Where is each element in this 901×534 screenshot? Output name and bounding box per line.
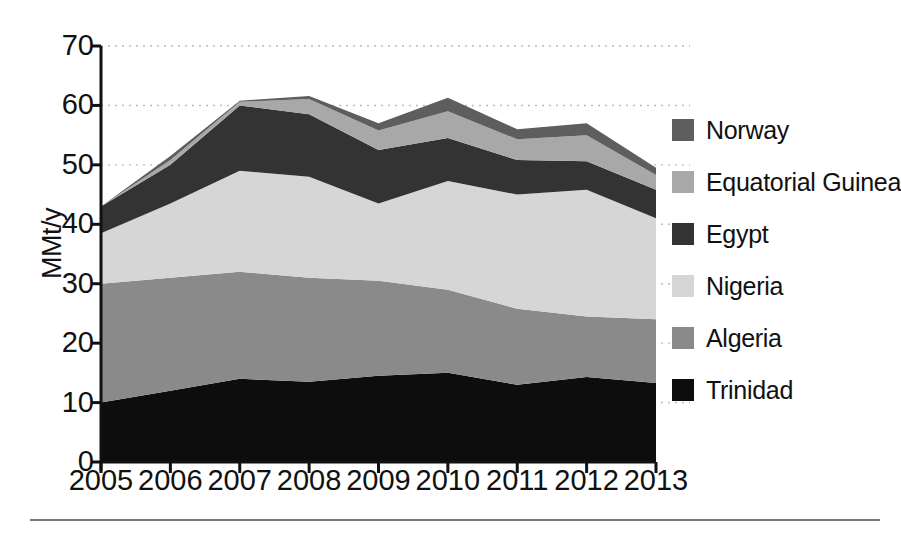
x-tick-label-2010: 2010 [408, 466, 488, 495]
x-tick-label-2006: 2006 [130, 466, 210, 495]
legend-swatch-icon [672, 171, 694, 193]
legend-item-label: Norway [706, 116, 789, 145]
legend-item-trinidad[interactable]: Trinidad [672, 364, 894, 416]
x-tick-label-2009: 2009 [339, 466, 419, 495]
legend-swatch-icon [672, 327, 694, 349]
legend-item-label: Trinidad [706, 376, 793, 405]
chart-legend: NorwayEquatorial GuineaEgyptNigeriaAlger… [672, 104, 894, 416]
x-tick-label-2008: 2008 [269, 466, 349, 495]
area-series-group [101, 96, 656, 462]
legend-swatch-icon [672, 275, 694, 297]
x-tick-label-2011: 2011 [477, 466, 557, 495]
legend-item-equatorial-guinea[interactable]: Equatorial Guinea [672, 156, 894, 208]
x-tick-label-2013: 2013 [616, 466, 696, 495]
legend-item-label: Algeria [706, 324, 782, 353]
legend-swatch-icon [672, 379, 694, 401]
legend-swatch-icon [672, 223, 694, 245]
x-tick-label-2007: 2007 [200, 466, 280, 495]
x-tick-label-2005: 2005 [61, 466, 141, 495]
legend-item-egypt[interactable]: Egypt [672, 208, 894, 260]
legend-item-norway[interactable]: Norway [672, 104, 894, 156]
x-tick-label-2012: 2012 [547, 466, 627, 495]
legend-swatch-icon [672, 119, 694, 141]
legend-item-label: Nigeria [706, 272, 783, 301]
legend-item-algeria[interactable]: Algeria [672, 312, 894, 364]
footer-divider-rule [30, 519, 880, 521]
legend-item-nigeria[interactable]: Nigeria [672, 260, 894, 312]
legend-item-label: Egypt [706, 220, 768, 249]
legend-item-label: Equatorial Guinea [706, 168, 901, 197]
